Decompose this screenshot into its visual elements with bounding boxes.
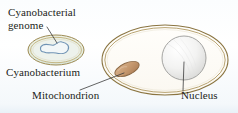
endosymbiosis-diagram: Cyanobacterial genome Cyanobacterium Mit…: [0, 0, 238, 113]
cyanobacterium: [28, 35, 84, 65]
label-mitochondrion: Mitochondrion: [32, 89, 99, 102]
label-cyanobacterial-genome-line1: Cyanobacterial: [8, 6, 76, 18]
label-cyanobacterial-genome: Cyanobacterial genome: [8, 6, 76, 31]
label-cyanobacterium: Cyanobacterium: [6, 66, 80, 79]
label-cyanobacterial-genome-line2: genome: [8, 19, 76, 32]
label-nucleus: Nucleus: [181, 89, 218, 102]
